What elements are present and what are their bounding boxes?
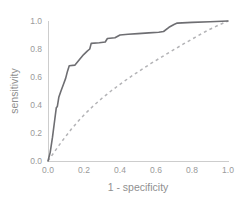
- x-tick-label: 0.8: [186, 165, 198, 175]
- x-axis-title: 1 - specificity: [108, 181, 169, 193]
- x-tick-label: 1.0: [222, 165, 234, 175]
- y-tick-label: 0.0: [30, 156, 42, 166]
- y-tick-label: 0.6: [30, 72, 42, 82]
- x-tick-label: 0.4: [114, 165, 126, 175]
- y-tick-label: 0.8: [30, 44, 42, 54]
- roc-curve-dashed: [48, 21, 228, 161]
- y-axis-title: sensitivity: [8, 67, 20, 113]
- x-axis-tick-labels: 0.00.20.40.60.81.0: [42, 165, 234, 175]
- y-tick-label: 0.4: [30, 100, 42, 110]
- x-tick-label: 0.0: [42, 165, 54, 175]
- roc-chart-figure: 0.00.20.40.60.81.0 0.00.20.40.60.81.0 1 …: [0, 0, 249, 201]
- x-tick-label: 0.6: [150, 165, 162, 175]
- y-tick-label: 0.2: [30, 128, 42, 138]
- roc-curve-solid: [48, 21, 228, 161]
- y-axis-tick-labels: 0.00.20.40.60.81.0: [30, 16, 42, 166]
- x-tick-label: 0.2: [78, 165, 90, 175]
- y-tick-label: 1.0: [30, 16, 42, 26]
- roc-plot-canvas: 0.00.20.40.60.81.0 0.00.20.40.60.81.0 1 …: [0, 0, 249, 201]
